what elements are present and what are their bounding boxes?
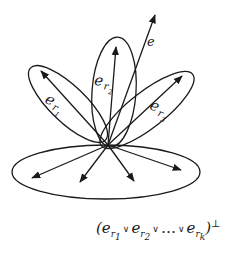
label-er1: e r 1 (40, 90, 68, 119)
label-er2: e r 2 (93, 71, 116, 97)
perp-superscript: ⊥ (211, 218, 220, 229)
formula-term-k: erk (187, 219, 206, 237)
complement-vector-4 (108, 145, 181, 170)
label-e: e (147, 34, 155, 49)
formula-join-operator: ∨ (178, 224, 185, 234)
formula-term-2: er2 (131, 219, 150, 237)
diagram-canvas: e e r 1 e r 2 e r 3 (0, 0, 243, 254)
formula-term-1: er1 (102, 219, 121, 237)
complement-vector-3 (108, 145, 134, 181)
complement-formula: (er1∨er2∨…∨erk)⊥ (96, 218, 242, 248)
formula-ellipsis: … (161, 219, 176, 237)
label-er3: e r 3 (145, 96, 172, 125)
complement-vector-1 (32, 145, 108, 178)
formula-join-operator: ∨ (152, 224, 159, 234)
formula-join-operator: ∨ (123, 224, 130, 234)
petal-er1 (18, 55, 118, 153)
complement-plane-ellipse (12, 145, 200, 199)
